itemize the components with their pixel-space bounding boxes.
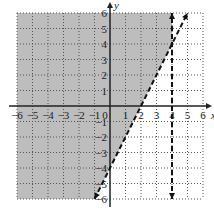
x-tick-label: 4 [169, 109, 175, 121]
y-tick-label: 1 [102, 85, 108, 97]
y-tick-label: 2 [102, 69, 108, 81]
y-axis-label: y [113, 0, 119, 11]
x-tick-label: −3 [58, 109, 70, 121]
x-tick-label: 2 [138, 109, 144, 121]
inequality-graph: −6−5−4−3−2−10123456654321−1−2−3−4−5−6xy [0, 0, 214, 215]
x-tick-label: −4 [42, 109, 54, 121]
x-tick-label: −2 [73, 109, 85, 121]
x-tick-label: 5 [185, 109, 191, 121]
y-tick-label: 5 [102, 23, 108, 35]
y-tick-label: 4 [102, 38, 108, 50]
y-tick-label: −6 [95, 193, 107, 205]
y-tick-label: −1 [95, 116, 107, 128]
x-tick-label: 1 [123, 109, 129, 121]
y-axis-arrow-icon [107, 2, 113, 8]
y-tick-label: 3 [102, 54, 108, 66]
x-axis-label: x [210, 109, 214, 121]
x-tick-label: −6 [11, 109, 23, 121]
x-tick-label: 3 [154, 109, 160, 121]
y-tick-label: −5 [95, 178, 107, 190]
y-tick-label: 6 [102, 7, 108, 19]
vertical-line-arrow-icon [169, 193, 175, 199]
y-tick-label: −2 [95, 131, 107, 143]
y-tick-label: −4 [95, 162, 107, 174]
x-tick-label: −5 [27, 109, 39, 121]
x-tick-label: 6 [200, 109, 206, 121]
y-tick-label: −3 [95, 147, 107, 159]
